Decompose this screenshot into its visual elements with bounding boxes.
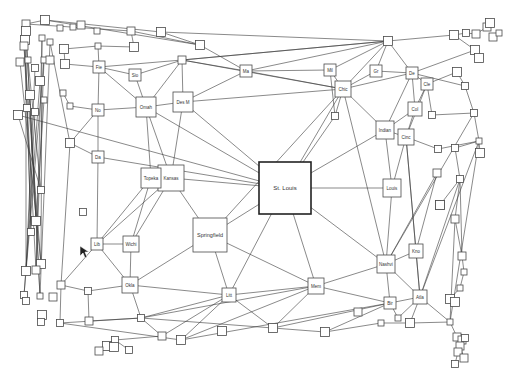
graph-node[interactable] — [462, 335, 469, 342]
graph-node[interactable] — [269, 324, 278, 333]
graph-node[interactable] — [460, 354, 468, 362]
graph-node[interactable] — [28, 229, 35, 236]
graph-node[interactable] — [26, 91, 35, 100]
graph-node[interactable] — [158, 332, 166, 340]
graph-node[interactable] — [196, 41, 205, 50]
graph-node[interactable] — [61, 60, 70, 69]
graph-node[interactable] — [395, 315, 401, 321]
graph-node[interactable] — [77, 21, 85, 29]
graph-node[interactable] — [41, 97, 47, 103]
graph-node[interactable] — [32, 109, 39, 116]
graph-node[interactable] — [451, 215, 459, 223]
graph-node[interactable] — [178, 56, 186, 64]
graph-node[interactable] — [80, 209, 87, 216]
graph-node[interactable] — [450, 31, 459, 40]
graph-node[interactable] — [354, 308, 362, 316]
graph-node[interactable] — [463, 30, 470, 37]
graph-node[interactable] — [475, 54, 484, 63]
graph-node-gr[interactable]: Gr — [370, 65, 382, 77]
graph-node[interactable] — [57, 25, 63, 31]
graph-node-de[interactable]: De — [406, 67, 418, 79]
graph-node[interactable] — [85, 288, 92, 295]
graph-node-bir[interactable]: Bir — [384, 297, 396, 309]
graph-node[interactable] — [85, 317, 93, 325]
graph-node[interactable] — [32, 266, 40, 274]
graph-node-stlouis[interactable]: St. Louis — [259, 162, 311, 214]
graph-node[interactable] — [406, 319, 415, 328]
graph-node[interactable] — [457, 176, 464, 183]
graph-node[interactable] — [57, 320, 64, 327]
graph-node-da[interactable]: Da — [92, 151, 104, 163]
graph-node[interactable] — [60, 45, 69, 54]
graph-node[interactable] — [476, 149, 485, 158]
graph-node[interactable] — [127, 27, 135, 35]
graph-node-louis[interactable]: Louis — [383, 179, 401, 197]
graph-node[interactable] — [39, 35, 45, 41]
graph-node-atla[interactable]: Atla — [413, 290, 427, 304]
graph-node[interactable] — [462, 83, 469, 90]
graph-node[interactable] — [32, 217, 41, 226]
graph-node-chic[interactable]: Chic — [335, 81, 351, 97]
graph-node-okla[interactable]: Okla — [122, 277, 138, 293]
graph-node[interactable] — [429, 112, 436, 119]
graph-node[interactable] — [461, 269, 467, 275]
graph-node[interactable] — [16, 58, 24, 66]
graph-node-nashvi[interactable]: Nashvi — [377, 255, 395, 273]
graph-node[interactable] — [378, 320, 384, 326]
graph-node[interactable] — [332, 113, 339, 120]
graph-node-kansas[interactable]: Kansas — [158, 165, 184, 191]
graph-node[interactable] — [41, 16, 50, 25]
graph-node[interactable] — [94, 28, 100, 34]
graph-node-no[interactable]: No — [92, 104, 104, 116]
graph-node[interactable] — [22, 267, 31, 276]
graph-node-kno[interactable]: Kno — [409, 244, 423, 258]
graph-node[interactable] — [95, 43, 101, 49]
graph-node[interactable] — [14, 111, 23, 120]
graph-node[interactable] — [36, 77, 45, 86]
graph-node[interactable] — [38, 187, 45, 194]
graph-node[interactable] — [496, 30, 502, 36]
graph-node[interactable] — [472, 30, 480, 38]
graph-node[interactable] — [20, 42, 28, 50]
graph-node[interactable] — [436, 201, 445, 210]
graph-node-sio[interactable]: Sio — [129, 69, 141, 81]
graph-node[interactable] — [23, 298, 30, 305]
graph-node-ma[interactable]: Ma — [240, 65, 252, 77]
graph-node-topeka[interactable]: Topeka — [141, 168, 161, 188]
graph-node[interactable] — [453, 68, 462, 77]
graph-node[interactable] — [433, 169, 441, 177]
graph-node[interactable] — [49, 293, 57, 301]
graph-node[interactable] — [447, 319, 453, 325]
graph-node-fie[interactable]: Fie — [93, 61, 105, 73]
graph-node[interactable] — [32, 65, 39, 72]
graph-node[interactable] — [486, 19, 495, 28]
graph-node[interactable] — [458, 252, 466, 260]
graph-node[interactable] — [126, 347, 133, 354]
graph-node[interactable] — [321, 328, 330, 337]
graph-node-indian[interactable]: Indian — [376, 121, 394, 139]
graph-node[interactable] — [157, 28, 166, 37]
graph-node[interactable] — [95, 347, 103, 355]
graph-node[interactable] — [384, 37, 393, 46]
graph-node[interactable] — [46, 56, 54, 64]
graph-node[interactable] — [452, 145, 459, 152]
graph-node[interactable] — [47, 39, 53, 45]
graph-node[interactable] — [37, 293, 43, 299]
graph-node[interactable] — [57, 281, 65, 289]
graph-node[interactable] — [67, 103, 73, 109]
graph-node[interactable] — [451, 298, 460, 307]
graph-node[interactable] — [22, 27, 31, 36]
graph-node-wichi[interactable]: Wichi — [123, 236, 139, 252]
graph-node[interactable] — [110, 343, 119, 352]
graph-node[interactable] — [24, 105, 31, 112]
graph-node[interactable] — [60, 90, 66, 96]
graph-node[interactable] — [138, 315, 145, 322]
graph-node[interactable] — [471, 110, 478, 117]
graph-node-springfield[interactable]: Springfield — [193, 218, 227, 252]
graph-node-litt[interactable]: Litt — [222, 288, 236, 302]
graph-node[interactable] — [452, 361, 459, 368]
graph-node[interactable] — [177, 336, 186, 345]
graph-node[interactable] — [130, 43, 139, 52]
graph-node[interactable] — [435, 146, 442, 153]
graph-node-omah[interactable]: Omah — [136, 97, 156, 117]
